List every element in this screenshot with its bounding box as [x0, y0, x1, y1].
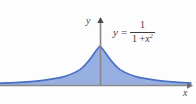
denominator-constant: 1 + [132, 33, 145, 44]
y-axis-label: y [86, 16, 90, 26]
fraction-numerator: 1 [136, 20, 149, 32]
x-axis-label: x [183, 88, 187, 98]
equation-lhs: y [113, 27, 120, 38]
equation-annotation: y = 1 1 +x2 [113, 20, 155, 44]
curve-plot [0, 0, 196, 104]
figure-container: y x y = 1 1 +x2 [0, 0, 196, 104]
denominator-exponent: 2 [150, 31, 153, 38]
equation-fraction: 1 1 +x2 [130, 20, 155, 44]
y-axis-arrowhead [97, 17, 103, 23]
equation-relation: = [120, 27, 130, 38]
fraction-denominator: 1 +x2 [130, 33, 155, 45]
